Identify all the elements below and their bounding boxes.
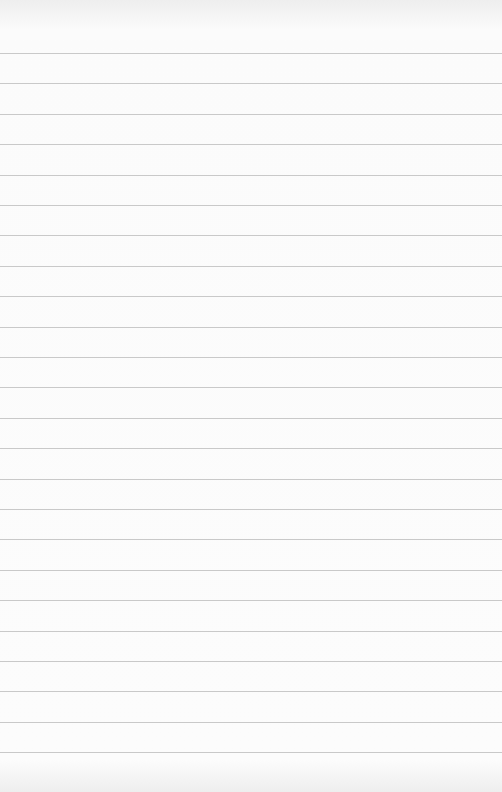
ruled-line: [0, 266, 502, 267]
ruled-line: [0, 144, 502, 145]
ruled-line: [0, 83, 502, 84]
ruled-line: [0, 661, 502, 662]
ruled-line: [0, 327, 502, 328]
ruled-line: [0, 539, 502, 540]
ruled-line: [0, 752, 502, 753]
ruled-line: [0, 205, 502, 206]
ruled-line: [0, 114, 502, 115]
ruled-line: [0, 570, 502, 571]
ruled-line: [0, 418, 502, 419]
ruled-line: [0, 631, 502, 632]
ruled-line: [0, 357, 502, 358]
ruled-line: [0, 235, 502, 236]
ruled-line: [0, 600, 502, 601]
ruled-line: [0, 296, 502, 297]
ruled-line: [0, 691, 502, 692]
ruled-line: [0, 175, 502, 176]
ruled-line: [0, 53, 502, 54]
ruled-line: [0, 387, 502, 388]
ruled-line: [0, 722, 502, 723]
lined-paper: [0, 0, 502, 792]
ruled-line: [0, 509, 502, 510]
ruled-line: [0, 448, 502, 449]
ruled-line: [0, 479, 502, 480]
